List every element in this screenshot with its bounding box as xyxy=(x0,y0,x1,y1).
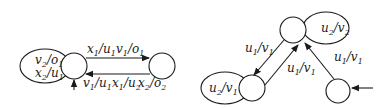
left-automaton: v2/o1 x2/u1 x1/u1 v1/o1 v1/u1 x1/u2 x2/o… xyxy=(20,42,175,92)
right-right-edge-label: u1/v1 xyxy=(334,50,363,66)
right-top-loop-label: u2/v2 xyxy=(321,21,350,37)
left-bottom-label-1: v1/u1 xyxy=(83,76,112,92)
right-automaton: u2/v2 u1/v1 u1/v1 u2/v1 u1/v1 xyxy=(201,12,373,104)
right-down-edge-label: u1/v1 xyxy=(245,41,274,57)
left-top-label-2: v1/o1 xyxy=(116,42,144,58)
right-state-right xyxy=(326,79,350,103)
left-top-label-1: x1/u1 xyxy=(87,42,116,58)
automata-diagram: v2/o1 x2/u1 x1/u1 v1/o1 v1/u1 x1/u2 x2/o… xyxy=(0,0,392,108)
right-left-loop-label: u2/v1 xyxy=(209,81,238,97)
right-up-edge-label: u1/v1 xyxy=(287,61,316,77)
left-bottom-label-2: x1/u2 xyxy=(112,76,141,92)
right-state-left xyxy=(239,75,265,101)
right-state-top xyxy=(280,17,306,43)
